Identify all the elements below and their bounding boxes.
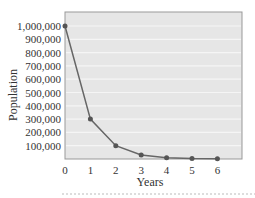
data-point (215, 156, 220, 161)
y-tick-label: 500,000 (25, 87, 61, 99)
x-axis-label: Years (137, 175, 164, 189)
x-tick-label: 0 (62, 164, 68, 176)
y-tick-label: 300,000 (25, 113, 61, 125)
y-tick-label: 700,000 (25, 60, 61, 72)
y-axis-ticks: 100,000200,000300,000400,000500,000600,0… (17, 20, 62, 152)
y-tick-label: 100,000 (25, 140, 61, 152)
data-point (190, 156, 195, 161)
y-tick-label: 200,000 (25, 126, 61, 138)
y-tick-label: 400,000 (25, 100, 61, 112)
y-axis-label: Population (6, 69, 20, 121)
x-tick-label: 4 (164, 164, 170, 176)
y-tick-label: 900,000 (25, 33, 61, 45)
data-point (88, 117, 93, 122)
data-point (139, 153, 144, 158)
x-tick-label: 2 (113, 164, 119, 176)
y-tick-label: 600,000 (25, 73, 61, 85)
data-point (63, 24, 68, 29)
y-tick-label: 800,000 (25, 47, 61, 59)
population-chart: 100,000200,000300,000400,000500,000600,0… (0, 0, 255, 198)
plot-area (65, 12, 242, 159)
y-tick-label: 1,000,000 (17, 20, 62, 32)
x-tick-label: 5 (189, 164, 195, 176)
x-tick-label: 6 (215, 164, 221, 176)
data-point (164, 155, 169, 160)
data-point (113, 143, 118, 148)
x-tick-label: 1 (88, 164, 94, 176)
